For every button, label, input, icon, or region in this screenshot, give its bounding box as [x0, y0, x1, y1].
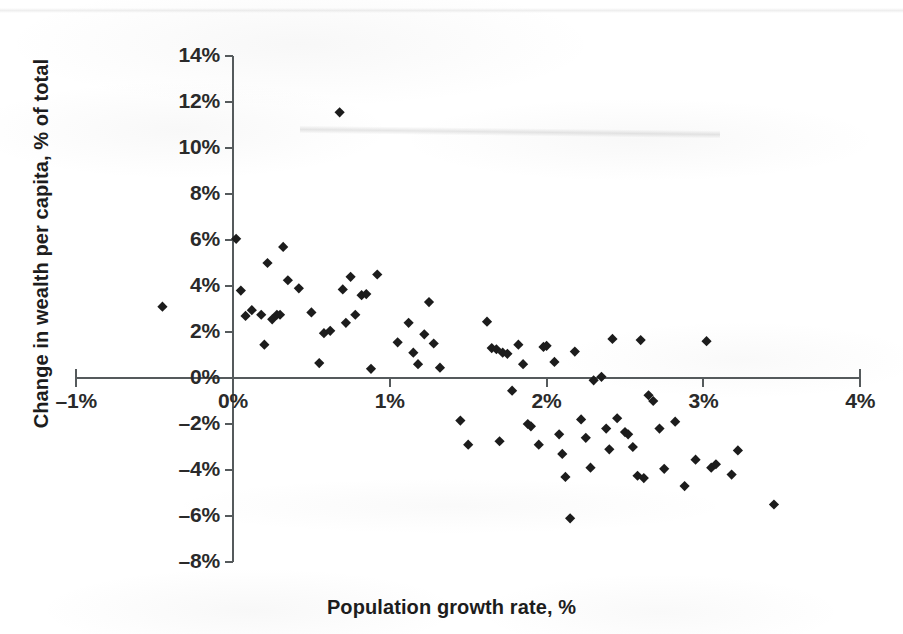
data-point: [335, 107, 345, 117]
data-point: [607, 334, 617, 344]
data-point: [259, 340, 269, 350]
data-point: [314, 358, 324, 368]
y-tick-label: –8%: [65, 549, 220, 573]
data-point: [463, 440, 473, 450]
data-point: [278, 242, 288, 252]
data-point: [628, 442, 638, 452]
data-point: [262, 258, 272, 268]
data-point: [408, 348, 418, 358]
data-point: [612, 413, 622, 423]
data-point: [581, 433, 591, 443]
data-point: [679, 481, 689, 491]
data-point: [341, 318, 351, 328]
data-point: [601, 424, 611, 434]
data-point: [585, 463, 595, 473]
y-tick-label: –2%: [65, 411, 220, 435]
y-tick-label: 8%: [65, 181, 220, 205]
data-point: [413, 359, 423, 369]
data-point: [256, 310, 266, 320]
data-point: [565, 513, 575, 523]
data-markers-group: [157, 107, 779, 523]
data-point: [576, 414, 586, 424]
data-point: [455, 415, 465, 425]
data-point: [494, 436, 504, 446]
data-point: [338, 284, 348, 294]
y-tick-label: 0%: [65, 365, 220, 389]
data-point: [404, 318, 414, 328]
data-point: [554, 429, 564, 439]
data-point: [513, 340, 523, 350]
data-point: [435, 363, 445, 373]
y-tick-label: 14%: [65, 43, 220, 67]
x-tick-label: 3%: [643, 389, 763, 413]
data-point: [557, 449, 567, 459]
y-axis-title: Change in wealth per capita, % of total: [30, 54, 53, 434]
data-point: [283, 275, 293, 285]
data-point: [701, 336, 711, 346]
data-point: [518, 359, 528, 369]
x-tick-label: 1%: [330, 389, 450, 413]
y-tick-label: –6%: [65, 503, 220, 527]
data-point: [659, 464, 669, 474]
data-point: [690, 455, 700, 465]
x-tick-label: 2%: [487, 389, 607, 413]
data-point: [419, 329, 429, 339]
data-point: [306, 307, 316, 317]
y-tick-label: 2%: [65, 319, 220, 343]
data-point: [560, 472, 570, 482]
y-tick-label: 4%: [65, 273, 220, 297]
data-point: [604, 444, 614, 454]
data-point: [157, 302, 167, 312]
data-point: [636, 335, 646, 345]
data-point: [727, 470, 737, 480]
y-tick-label: 10%: [65, 135, 220, 159]
scatter-chart: 14%12%10%8%6%4%2%0%–2%–4%–6%–8% –1%0%1%2…: [0, 0, 903, 634]
data-point: [424, 297, 434, 307]
x-axis-title: Population growth rate, %: [0, 596, 903, 619]
data-point: [350, 310, 360, 320]
data-point: [482, 317, 492, 327]
data-point: [549, 357, 559, 367]
axes-group: [76, 56, 860, 562]
y-tick-label: 6%: [65, 227, 220, 251]
data-point: [570, 346, 580, 356]
data-point: [769, 499, 779, 509]
data-point: [372, 269, 382, 279]
x-tick-label: 0%: [173, 389, 293, 413]
data-point: [733, 445, 743, 455]
data-point: [534, 440, 544, 450]
data-point: [366, 364, 376, 374]
data-point: [294, 283, 304, 293]
data-point: [429, 338, 439, 348]
y-tick-label: –4%: [65, 457, 220, 481]
data-point: [670, 417, 680, 427]
x-tick-label: 4%: [800, 389, 903, 413]
data-point: [393, 337, 403, 347]
data-point: [236, 286, 246, 296]
y-tick-label: 12%: [65, 89, 220, 113]
data-point: [346, 272, 356, 282]
data-point: [654, 424, 664, 434]
